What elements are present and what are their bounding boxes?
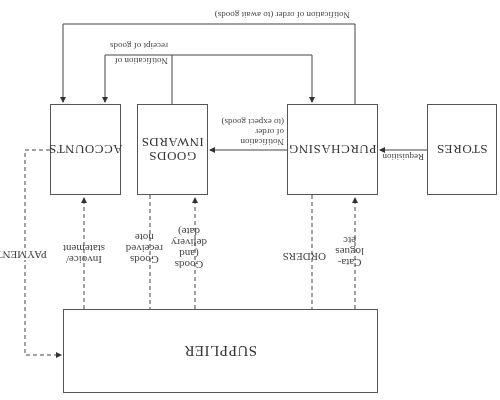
goods-delivery-label: Goods (and delivery date) [171,226,207,270]
stores-box: STORES [427,104,497,195]
supplier-label: SUPPLIER [184,344,257,358]
notify-expect-label: Notification of order (to expect goods) [222,117,284,147]
accounts-label: ACCOUNTS [48,143,122,157]
orders-label: ORDERS [283,251,326,262]
notify-receipt-label-1: Notification of [115,56,168,66]
invoice-label: Invoice/ statement [63,243,105,265]
purchasing-box: PURCHASING [287,104,378,195]
notify-receipt-purchasing-arrow [172,55,312,102]
accounts-box: ACCOUNTS [50,104,121,195]
notify-await-arrow [63,24,355,104]
payment-label: PAYMENT [0,249,47,260]
grn-label: Goods received note [126,232,163,265]
goods-inwards-box: GOODS INWARDS [137,104,208,195]
stores-label: STORES [436,143,487,157]
flow-diagram: STORES PURCHASING GOODS INWARDS ACCOUNTS… [0,0,500,400]
notify-await-label: Notification of order (to await goods) [215,10,350,20]
notify-receipt-label-2: receipt of goods [110,41,168,51]
requisition-label: Requisition [382,152,424,162]
catalogues-label: Cata- logues etc [335,235,364,268]
supplier-box: SUPPLIER [63,309,378,393]
purchasing-label: PURCHASING [288,143,376,157]
goods-inwards-label: GOODS INWARDS [141,136,204,164]
